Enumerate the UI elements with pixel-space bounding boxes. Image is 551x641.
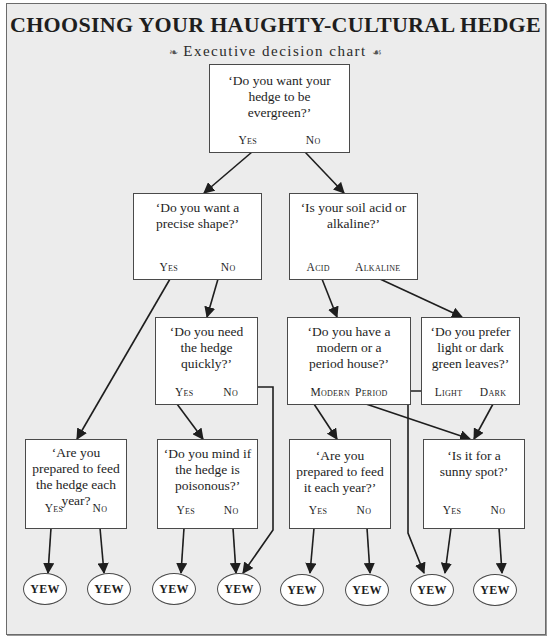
answer-yes: Yes bbox=[238, 134, 257, 146]
answer-light: Light bbox=[435, 386, 463, 398]
answer-yes: Yes bbox=[176, 504, 195, 516]
answer-yes: Yes bbox=[159, 261, 178, 273]
outcome-yew-5: YEW bbox=[280, 574, 324, 606]
answer-no: No bbox=[306, 134, 321, 146]
answer-options: Modern Period bbox=[292, 386, 406, 398]
question-box-quickly: ‘Do you need the hedge quickly?’ Yes No bbox=[155, 317, 258, 405]
answer-yes: Yes bbox=[175, 386, 194, 398]
answer-options: Light Dark bbox=[426, 386, 515, 398]
question-box-leaves: ‘Do you prefer light or dark green leave… bbox=[421, 317, 520, 405]
question-text: ‘Is your soil acid or alkaline?’ bbox=[292, 200, 415, 232]
outcome-yew-7: YEW bbox=[410, 574, 454, 606]
answer-options: Acid Alkaline bbox=[294, 261, 413, 273]
answer-modern: Modern bbox=[310, 386, 350, 398]
outcome-yew-2: YEW bbox=[87, 573, 131, 605]
question-box-precise-shape: ‘Do you want a precise shape?’ Yes No bbox=[133, 193, 262, 280]
question-box-feed-hedge: ‘Are you prepared to feed the hedge each… bbox=[25, 439, 127, 529]
answer-no: No bbox=[93, 502, 108, 514]
answer-acid: Acid bbox=[307, 261, 330, 273]
outcome-yew-1: YEW bbox=[23, 573, 67, 605]
answer-options: Yes No bbox=[30, 502, 122, 514]
question-box-sunny: ‘Is it for a sunny spot?’ Yes No bbox=[423, 439, 525, 529]
answer-options: Yes No bbox=[294, 504, 386, 516]
answer-options: Yes No bbox=[138, 261, 257, 273]
question-box-house: ‘Do you have a modern or a period house?… bbox=[287, 317, 411, 405]
answer-no: No bbox=[357, 504, 372, 516]
question-text: ‘Do you have a modern or a period house?… bbox=[290, 324, 408, 372]
answer-no: No bbox=[491, 504, 506, 516]
answer-options: Yes No bbox=[214, 134, 345, 146]
answer-dark: Dark bbox=[480, 386, 506, 398]
question-text: ‘Do you need the hedge quickly?’ bbox=[158, 324, 255, 372]
answer-no: No bbox=[224, 504, 239, 516]
question-text: ‘Are you prepared to feed the hedge each… bbox=[28, 445, 124, 509]
question-text: ‘Do you mind if the hedge is poisonous?’ bbox=[160, 446, 255, 494]
question-text: ‘Do you want your hedge to be evergreen?… bbox=[212, 73, 347, 121]
question-box-soil: ‘Is your soil acid or alkaline?’ Acid Al… bbox=[289, 193, 418, 280]
question-text: ‘Do you want a precise shape?’ bbox=[136, 200, 259, 232]
answer-no: No bbox=[223, 386, 238, 398]
outcome-yew-6: YEW bbox=[345, 574, 389, 606]
question-box-poisonous: ‘Do you mind if the hedge is poisonous?’… bbox=[157, 439, 258, 529]
answer-options: Yes No bbox=[162, 504, 253, 516]
answer-no: No bbox=[221, 261, 236, 273]
question-text: ‘Are you prepared to feed it each year?’ bbox=[292, 448, 388, 496]
answer-period: Period bbox=[355, 386, 388, 398]
question-text: ‘Is it for a sunny spot?’ bbox=[426, 448, 522, 480]
question-box-evergreen: ‘Do you want your hedge to be evergreen?… bbox=[209, 64, 350, 153]
answer-options: Yes No bbox=[160, 386, 253, 398]
question-text: ‘Do you prefer light or dark green leave… bbox=[424, 324, 517, 372]
outcome-yew-8: YEW bbox=[473, 574, 517, 606]
question-box-feed-it: ‘Are you prepared to feed it each year?’… bbox=[289, 439, 391, 529]
outcome-yew-4: YEW bbox=[217, 573, 261, 605]
answer-yes: Yes bbox=[45, 502, 64, 514]
answer-options: Yes No bbox=[428, 504, 520, 516]
answer-yes: Yes bbox=[443, 504, 462, 516]
answer-alkaline: Alkaline bbox=[355, 261, 400, 273]
answer-yes: Yes bbox=[309, 504, 328, 516]
outcome-yew-3: YEW bbox=[152, 573, 196, 605]
